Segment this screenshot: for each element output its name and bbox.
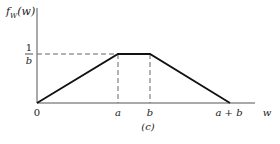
y-tick-numerator: 1 [26, 42, 32, 53]
trapezoid-pdf-diagram: fW(w) 1 b 0 a b a + b w (c) [0, 0, 280, 144]
figure-caption: (c) [141, 121, 155, 132]
x-tick-0: 0 [34, 107, 40, 118]
x-axis-label: w [263, 107, 272, 118]
y-tick-denominator: b [26, 55, 32, 66]
y-axis-label: fW(w) [5, 5, 35, 20]
x-tick-a-plus-b: a + b [215, 107, 242, 118]
x-tick-a: a [115, 107, 121, 118]
x-tick-b: b [147, 107, 153, 118]
pdf-curve [37, 54, 230, 103]
